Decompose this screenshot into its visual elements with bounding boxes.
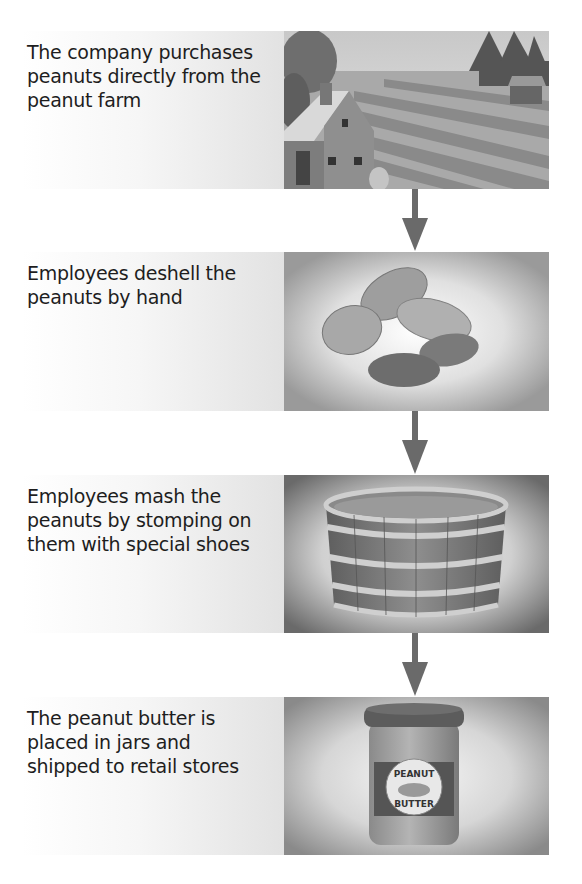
peanuts-icon [284,252,549,411]
arrow-down-icon [400,411,430,475]
peanut-butter-jar-icon: PEANUT BUTTER [284,697,549,855]
step-1-line-1: The company purchases [27,40,282,64]
step-1-text: The company purchases peanuts directly f… [27,40,282,112]
step-4-line-3: shipped to retail stores [27,754,282,778]
step-4-line-1: The peanut butter is [27,706,282,730]
step-4-line-2: placed in jars and [27,730,282,754]
step-2-line-2: peanuts by hand [27,285,282,309]
step-3-line-1: Employees mash the [27,484,282,508]
step-1: The company purchases peanuts directly f… [22,31,549,189]
step-3-text-band: Employees mash the peanuts by stomping o… [22,475,284,633]
step-2-text: Employees deshell the peanuts by hand [27,261,282,309]
step-1-line-3: peanut farm [27,88,282,112]
step-2: Employees deshell the peanuts by hand [22,252,549,411]
jar-label-bottom: BUTTER [394,799,434,809]
step-4-text: The peanut butter is placed in jars and … [27,706,282,778]
step-3: Employees mash the peanuts by stomping o… [22,475,549,633]
barrel-icon [284,475,549,633]
farm-icon [284,31,549,189]
jar-label-top: PEANUT [394,769,436,779]
step-2-text-band: Employees deshell the peanuts by hand [22,252,284,411]
step-2-line-1: Employees deshell the [27,261,282,285]
step-3-line-2: peanuts by stomping on [27,508,282,532]
step-4: The peanut butter is placed in jars and … [22,697,549,855]
arrow-down-icon [400,189,430,252]
step-4-text-band: The peanut butter is placed in jars and … [22,697,284,855]
step-3-text: Employees mash the peanuts by stomping o… [27,484,282,556]
step-1-line-2: peanuts directly from the [27,64,282,88]
step-1-text-band: The company purchases peanuts directly f… [22,31,284,189]
arrow-down-icon [400,633,430,697]
step-3-line-3: them with special shoes [27,532,282,556]
